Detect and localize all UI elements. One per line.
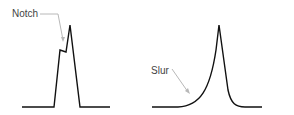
waveform-diagram <box>0 0 294 115</box>
notch-waveform <box>22 25 110 107</box>
notch-label: Notch <box>12 9 38 19</box>
notch-arrowhead-icon <box>61 37 65 42</box>
notch-leader-line <box>40 14 63 40</box>
notch-panel <box>22 14 110 107</box>
slur-leader-line <box>172 69 188 92</box>
slur-label: Slur <box>151 66 169 76</box>
